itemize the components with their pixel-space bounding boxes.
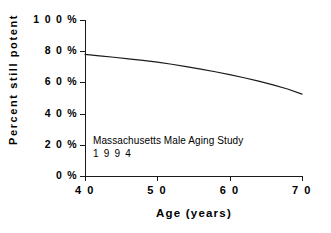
- chart-figure: Percent still potent 1 0 0 % 8 0 % 6 0 %…: [0, 0, 331, 233]
- annotation-line-2: 1 9 9 4: [93, 148, 243, 161]
- x-tick-label-50: 5 0: [147, 184, 167, 196]
- plot-area: 1 0 0 % 8 0 % 6 0 % 4 0 % 2 0 % 0 % 4 0 …: [85, 20, 302, 176]
- x-axis-title: Age (years): [85, 207, 303, 219]
- y-tick-label-60: 6 0 %: [45, 75, 78, 87]
- y-tick-label-40: 4 0 %: [45, 107, 78, 119]
- y-tick-label-0: 0 %: [56, 169, 78, 181]
- y-tick-label-80: 8 0 %: [45, 44, 78, 56]
- annotation-line-1: Massachusetts Male Aging Study: [93, 135, 243, 148]
- y-axis-title: Percent still potent: [0, 0, 26, 196]
- y-tick-label-20: 2 0 %: [45, 138, 78, 150]
- chart-annotation: Massachusetts Male Aging Study 1 9 9 4: [93, 135, 243, 160]
- x-tick-label-70: 7 0: [292, 184, 312, 196]
- x-tick-label-40: 4 0: [75, 184, 95, 196]
- y-tick-label-100: 1 0 0 %: [33, 13, 78, 25]
- x-tick-label-60: 6 0: [220, 184, 240, 196]
